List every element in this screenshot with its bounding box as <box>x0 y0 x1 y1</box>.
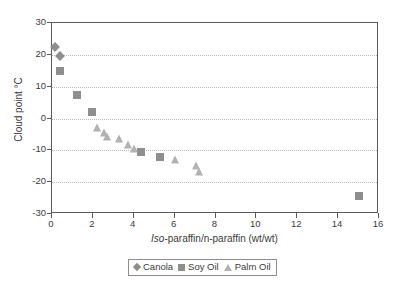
square-marker-icon <box>178 264 185 271</box>
legend-item-canola[interactable]: Canola <box>134 261 173 273</box>
data-point-triangle <box>195 168 203 176</box>
plot-area <box>51 22 378 213</box>
x-axis-tick-label: 6 <box>159 219 189 229</box>
y-axis-tick <box>47 149 51 150</box>
legend-item-soy-oil[interactable]: Soy Oil <box>178 261 219 273</box>
x-axis-tick-label: 4 <box>118 219 148 229</box>
data-point-triangle <box>100 128 108 136</box>
data-point-triangle <box>192 162 200 170</box>
y-axis-tick <box>47 181 51 182</box>
data-point-diamond <box>50 42 60 52</box>
legend-item-label: Canola <box>143 261 173 273</box>
gridline-horizontal <box>52 55 377 56</box>
y-axis-tick-label: -10 <box>32 144 46 154</box>
legend-item-label: Soy Oil <box>188 261 219 273</box>
gridline-horizontal <box>52 119 377 120</box>
x-axis-tick-label: 0 <box>36 219 66 229</box>
x-axis-title-italic-part: Iso <box>151 233 164 244</box>
x-axis-tick-label: 2 <box>77 219 107 229</box>
scatter-chart-figure: Cloud point °C Iso-paraffin/n-paraffin (… <box>0 0 395 287</box>
x-axis-tick-label: 8 <box>200 219 230 229</box>
y-axis-tick-label: 10 <box>35 81 46 91</box>
legend-item-label: Palm Oil <box>235 261 271 273</box>
data-point-triangle <box>93 124 101 132</box>
x-axis-tick-label: 10 <box>240 219 270 229</box>
data-point-square <box>355 192 363 200</box>
x-axis-tick-label: 14 <box>322 219 352 229</box>
data-point-triangle <box>124 140 132 148</box>
data-point-triangle <box>171 155 179 163</box>
chart-legend: CanolaSoy OilPalm Oil <box>128 259 277 276</box>
data-point-diamond <box>55 51 65 61</box>
y-axis-tick <box>47 22 51 23</box>
y-axis-tick-label: 0 <box>41 113 46 123</box>
data-point-square <box>88 108 96 116</box>
x-axis-tick-label: 12 <box>281 219 311 229</box>
x-axis-tick-label: 16 <box>363 219 393 229</box>
data-point-square <box>73 91 81 99</box>
legend-item-palm-oil[interactable]: Palm Oil <box>224 261 271 273</box>
gridline-horizontal <box>52 87 377 88</box>
triangle-marker-icon <box>224 264 232 271</box>
data-point-triangle <box>115 135 123 143</box>
y-axis-tick-label: 30 <box>35 17 46 27</box>
diamond-marker-icon <box>133 263 141 271</box>
data-point-triangle <box>103 133 111 141</box>
y-axis-tick <box>47 54 51 55</box>
y-axis-tick <box>47 86 51 87</box>
y-axis-tick-label: -20 <box>32 176 46 186</box>
data-point-square <box>156 153 164 161</box>
data-point-square <box>137 148 145 156</box>
y-axis-tick-label: -30 <box>32 208 46 218</box>
y-axis-title: Cloud point °C <box>13 40 24 180</box>
gridline-horizontal <box>52 182 377 183</box>
x-axis-title: Iso-paraffin/n-paraffin (wt/wt) <box>51 233 378 244</box>
y-axis-tick <box>47 118 51 119</box>
data-point-square <box>56 67 64 75</box>
y-axis-tick-label: 20 <box>35 49 46 59</box>
x-axis-title-rest: -paraffin/n-paraffin (wt/wt) <box>164 233 278 244</box>
gridline-horizontal <box>52 150 377 151</box>
